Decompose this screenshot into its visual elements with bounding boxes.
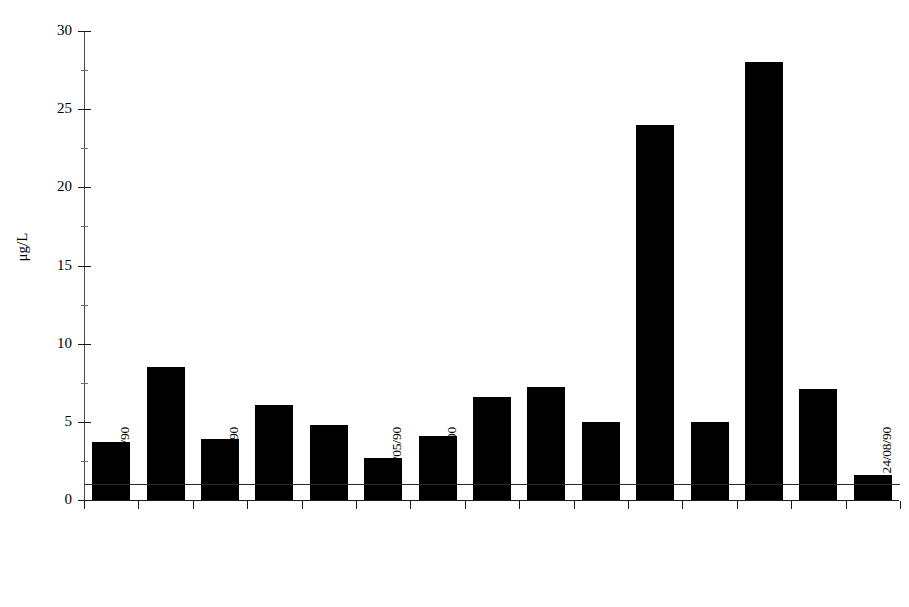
y-axis-tick-label: 10 (38, 336, 72, 351)
x-axis-tick (193, 501, 194, 509)
x-axis-tick (465, 501, 466, 509)
x-axis-tick-label: 25/05/90 (607, 427, 622, 513)
x-axis-tick (682, 501, 683, 509)
x-axis-tick-label: 15/05/90 (498, 427, 513, 513)
x-axis-tick (247, 501, 248, 509)
x-axis-tick-label: 11/02/90 (117, 427, 132, 513)
x-axis-tick (737, 501, 738, 509)
y-axis-tick-label: 15 (38, 258, 72, 273)
x-axis-tick-label: 7/05/90 (389, 427, 404, 513)
x-axis-tick-label: 23/02/90 (335, 427, 350, 513)
y-axis-tick-label: 25 (38, 101, 72, 116)
x-axis-tick (356, 501, 357, 509)
x-axis-tick (574, 501, 575, 509)
x-axis-tick-label: 13/02/90 (172, 427, 187, 513)
y-axis-title: μg/L (14, 212, 36, 282)
y-axis-tick-label: 30 (38, 23, 72, 38)
x-axis-tick (84, 501, 85, 509)
x-axis-tick-label: 21/02/90 (280, 427, 295, 513)
y-axis-tick-label: 5 (38, 414, 72, 429)
x-axis-tick-label: 6/08/90 (661, 427, 676, 513)
y-axis-tick-label: 0 (38, 492, 72, 507)
x-axis-tick (138, 501, 139, 509)
bar-chart: μg/L 051015202530 11/02/9013/02/9019/02/… (0, 0, 909, 607)
x-axis-tick (791, 501, 792, 509)
x-axis-tick-label: 21/08/90 (824, 427, 839, 513)
x-axis-tick (519, 501, 520, 509)
x-axis-tick (628, 501, 629, 509)
x-axis-tick-label: 8/08/90 (716, 427, 731, 513)
x-axis-tick-label: 16/08/90 (770, 427, 785, 513)
y-axis-tick-label: 20 (38, 179, 72, 194)
x-axis-tick-label: 9/05/90 (444, 427, 459, 513)
x-axis-tick-label: 19/02/90 (226, 427, 241, 513)
x-axis-tick-label: 24/08/90 (879, 427, 894, 513)
x-axis-tick (900, 501, 901, 509)
x-axis-tick-label: 23/05/90 (552, 427, 567, 513)
x-axis-tick (410, 501, 411, 509)
x-axis-tick (846, 501, 847, 509)
x-axis-tick (302, 501, 303, 509)
